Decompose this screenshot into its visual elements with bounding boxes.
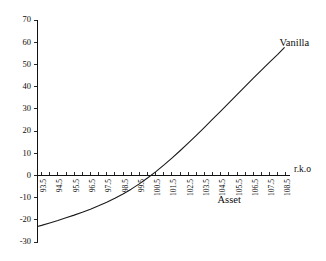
y-tick-label: 20 bbox=[23, 125, 32, 135]
series-line-vanilla bbox=[38, 48, 285, 227]
y-axis-group bbox=[34, 20, 38, 242]
y-tick-label: -10 bbox=[20, 192, 31, 202]
y-tick-label: 30 bbox=[23, 103, 32, 113]
x-tick-label: 97.5 bbox=[104, 179, 113, 192]
y-tick-label: 40 bbox=[23, 81, 32, 91]
x-tick-label: 107.5 bbox=[267, 179, 276, 196]
y-tick-label: 50 bbox=[23, 59, 32, 69]
x-tick-label: 99.5 bbox=[137, 179, 146, 192]
y-tick-label: 10 bbox=[23, 148, 32, 158]
x-tick-label: 94.5 bbox=[55, 179, 64, 192]
x-tick-label-group: 93.594.595.596.597.598.599.5100.5101.510… bbox=[39, 179, 292, 196]
annotation-label-vanilla: Vanilla bbox=[279, 37, 309, 48]
x-tick-label: 102.5 bbox=[186, 179, 195, 196]
data-series-group bbox=[38, 48, 285, 227]
y-tick-label-group: 706050403020100-10-20-30 bbox=[20, 14, 31, 246]
chart-figure: 706050403020100-10-20-30 93.594.595.596.… bbox=[0, 0, 326, 261]
x-tick-label: 108.5 bbox=[283, 179, 292, 196]
x-tick-label: 96.5 bbox=[88, 179, 97, 192]
x-tick-label: 101.5 bbox=[169, 179, 178, 196]
annotation-label-r-k-o: r.k.o bbox=[294, 164, 311, 174]
x-tick-label: 103.5 bbox=[202, 179, 211, 196]
x-axis-group bbox=[38, 172, 291, 176]
chart-canvas: 706050403020100-10-20-30 93.594.595.596.… bbox=[0, 0, 326, 261]
annotation-group: VanillaAssetr.k.o bbox=[218, 37, 312, 206]
x-tick-label: 100.5 bbox=[153, 179, 162, 196]
y-tick-label: 70 bbox=[23, 14, 32, 24]
x-tick-label: 93.5 bbox=[39, 179, 48, 192]
x-tick-label: 106.5 bbox=[251, 179, 260, 196]
x-tick-label: 98.5 bbox=[121, 179, 130, 192]
annotation-label-asset: Asset bbox=[218, 194, 241, 205]
y-tick-label: -20 bbox=[20, 214, 31, 224]
y-tick-label: -30 bbox=[20, 236, 31, 246]
y-tick-label: 0 bbox=[27, 170, 31, 180]
x-tick-label: 95.5 bbox=[72, 179, 81, 192]
y-tick-label: 60 bbox=[23, 37, 32, 47]
